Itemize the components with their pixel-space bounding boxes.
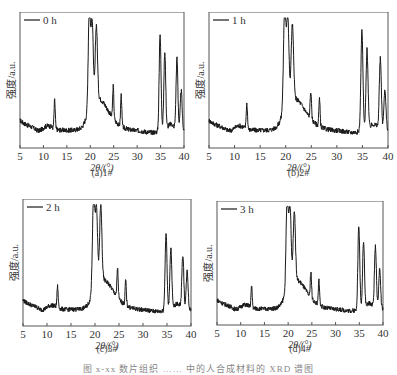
legend-label: 1 h (232, 14, 246, 26)
panel-caption-b: (b)2# (209, 167, 388, 178)
x-tick-label: 35 (162, 328, 174, 340)
xrd-panel-b: 5101520253035402θ/(°)强度/a.u.1 h (193, 12, 397, 178)
x-tick-label: 10 (235, 327, 247, 339)
legend-label: 2 h (46, 201, 60, 213)
x-tick-label: 30 (132, 150, 144, 162)
x-tick-label: 20 (280, 150, 292, 162)
x-tick-label: 30 (330, 327, 342, 339)
xrd-curve (209, 18, 388, 135)
x-tick-label: 35 (357, 150, 369, 162)
x-tick-label: 5 (206, 150, 212, 162)
panel-caption-c: (c)3# (23, 343, 191, 354)
x-tick-label: 40 (186, 328, 198, 340)
x-tick-label: 40 (378, 327, 390, 339)
x-tick-label: 30 (331, 150, 343, 162)
x-tick-label: 25 (306, 327, 318, 339)
x-tick-label: 5 (214, 327, 220, 339)
x-tick-label: 5 (20, 328, 26, 340)
x-tick-label: 10 (42, 328, 54, 340)
xrd-curve (20, 18, 184, 135)
figure-caption: 图 x-xx 数片组织 …… 中的人合成材料的 XRD 谱图 (0, 362, 397, 375)
panel-caption-a: (a)1# (20, 167, 184, 178)
xrd-curve (217, 206, 383, 313)
legend-label: 3 h (240, 203, 254, 215)
y-axis-label: 强度/a.u. (202, 244, 214, 281)
xrd-panel-d: 5101520253035402θ/(°)强度/a.u.3 h (201, 201, 393, 355)
x-tick-label: 25 (114, 328, 126, 340)
x-tick-label: 40 (383, 150, 395, 162)
xrd-panel-c: 5101520253035402θ/(°)强度/a.u.2 h (7, 199, 201, 356)
x-tick-label: 15 (66, 328, 78, 340)
x-tick-label: 30 (138, 328, 150, 340)
y-axis-label: 强度/a.u. (194, 61, 206, 98)
x-tick-label: 35 (155, 150, 167, 162)
x-tick-label: 10 (229, 150, 241, 162)
x-tick-label: 20 (283, 327, 295, 339)
x-tick-label: 40 (179, 150, 191, 162)
panel-caption-d: (d)4# (217, 343, 383, 354)
x-tick-label: 25 (108, 150, 120, 162)
x-tick-label: 15 (255, 150, 267, 162)
x-tick-label: 15 (259, 327, 271, 339)
x-tick-label: 15 (61, 150, 73, 162)
x-tick-label: 20 (90, 328, 102, 340)
x-tick-label: 25 (306, 150, 318, 162)
x-tick-label: 20 (85, 150, 97, 162)
x-tick-label: 10 (38, 150, 50, 162)
y-axis-label: 强度/a.u. (5, 61, 17, 98)
xrd-panel-a: 5101520253035402θ/(°)强度/a.u.0 h (4, 12, 194, 178)
x-tick-label: 35 (354, 327, 366, 339)
legend-label: 0 h (43, 14, 57, 26)
xrd-curve (23, 205, 191, 314)
y-axis-label: 强度/a.u. (8, 244, 20, 281)
x-tick-label: 5 (17, 150, 23, 162)
